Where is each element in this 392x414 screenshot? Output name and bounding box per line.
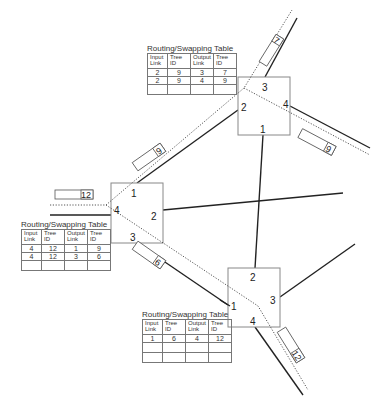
table-row xyxy=(22,261,111,271)
routing-table-title: Routing/Swapping Table xyxy=(142,310,232,319)
col-header: Input Link xyxy=(148,54,168,69)
cell xyxy=(65,261,88,271)
cell xyxy=(214,85,237,95)
table-row xyxy=(148,85,237,95)
routing-table-grid: Input Link Tree ID Output Link Tree ID 2… xyxy=(147,53,237,95)
table-row xyxy=(143,353,232,363)
cell: 9 xyxy=(88,245,111,253)
link-midleft-right xyxy=(163,193,343,210)
cell: 4 xyxy=(191,77,214,85)
cell: 6 xyxy=(163,335,186,343)
cell: 4 xyxy=(186,335,209,343)
port-label: 2 xyxy=(250,272,256,283)
routing-table-top: Routing/Swapping Table Input Link Tree I… xyxy=(147,44,237,95)
routing-table-bottom: Routing/Swapping Table Input Link Tree I… xyxy=(142,310,232,363)
cell: 4 xyxy=(22,253,42,261)
cell: 9 xyxy=(214,77,237,85)
port-label: 4 xyxy=(114,205,120,216)
routing-table-left: Routing/Swapping Table Input Link Tree I… xyxy=(21,220,111,271)
cell: 12 xyxy=(209,335,232,343)
routing-table-grid: Input Link Tree ID Output Link Tree ID 1… xyxy=(142,319,232,363)
cell: 12 xyxy=(42,253,65,261)
cell xyxy=(168,85,191,95)
cell: 2 xyxy=(148,69,168,77)
packet-12-left: 12 xyxy=(55,190,93,200)
col-header: Tree ID xyxy=(163,320,186,335)
port-label: 4 xyxy=(250,316,256,327)
port-label: 2 xyxy=(241,102,247,113)
packet-9-left: 9 xyxy=(132,143,166,172)
cell xyxy=(148,85,168,95)
cell: 9 xyxy=(168,69,191,77)
cell: 1 xyxy=(143,335,163,343)
col-header: Tree ID xyxy=(209,320,232,335)
cell: 3 xyxy=(65,253,88,261)
table-row xyxy=(143,343,232,353)
port-label: 1 xyxy=(260,124,266,135)
cell: 7 xyxy=(214,69,237,77)
routing-table-title: Routing/Swapping Table xyxy=(147,44,237,53)
link-topright-right xyxy=(290,106,370,148)
link-topright-to-midleft xyxy=(137,110,238,183)
col-header: Output Link xyxy=(65,230,88,245)
col-header: Tree ID xyxy=(88,230,111,245)
cell: 6 xyxy=(88,253,111,261)
table-row: 4 12 1 9 xyxy=(22,245,111,253)
cell: 9 xyxy=(168,77,191,85)
col-header: Tree ID xyxy=(168,54,191,69)
cell xyxy=(143,353,163,363)
cell xyxy=(186,343,209,353)
cell xyxy=(209,343,232,353)
col-header: Tree ID xyxy=(214,54,237,69)
col-header: Tree ID xyxy=(42,230,65,245)
cell xyxy=(209,353,232,363)
cell xyxy=(88,261,111,271)
svg-text:12: 12 xyxy=(81,190,91,200)
col-header: Output Link xyxy=(186,320,209,335)
col-header: Input Link xyxy=(143,320,163,335)
link-bottom-right xyxy=(280,244,355,297)
cell: 4 xyxy=(22,245,42,253)
cell: 1 xyxy=(65,245,88,253)
cell xyxy=(163,353,186,363)
cell xyxy=(22,261,42,271)
routing-table-grid: Input Link Tree ID Output Link Tree ID 4… xyxy=(21,229,111,271)
col-header: Output Link xyxy=(191,54,214,69)
port-label: 3 xyxy=(130,232,136,243)
col-header: Input Link xyxy=(22,230,42,245)
cell xyxy=(191,85,214,95)
cell: 3 xyxy=(191,69,214,77)
cell: 12 xyxy=(42,245,65,253)
cell: 2 xyxy=(148,77,168,85)
table-row: 2 9 3 7 xyxy=(148,69,237,77)
port-label: 3 xyxy=(262,82,268,93)
packet-6: 6 xyxy=(132,241,166,270)
packet-9-right: 9 xyxy=(297,129,336,157)
table-row: 4 12 3 6 xyxy=(22,253,111,261)
cell xyxy=(163,343,186,353)
port-label: 3 xyxy=(270,295,276,306)
port-label: 1 xyxy=(131,188,137,199)
packet-12-bottom: 12 xyxy=(276,327,304,363)
port-label: 4 xyxy=(283,99,289,110)
cell xyxy=(186,353,209,363)
routing-table-title: Routing/Swapping Table xyxy=(21,220,111,229)
cell xyxy=(42,261,65,271)
cell xyxy=(143,343,163,353)
table-row: 1 6 4 12 xyxy=(143,335,232,343)
table-row: 2 9 4 9 xyxy=(148,77,237,85)
port-label: 2 xyxy=(151,211,157,222)
